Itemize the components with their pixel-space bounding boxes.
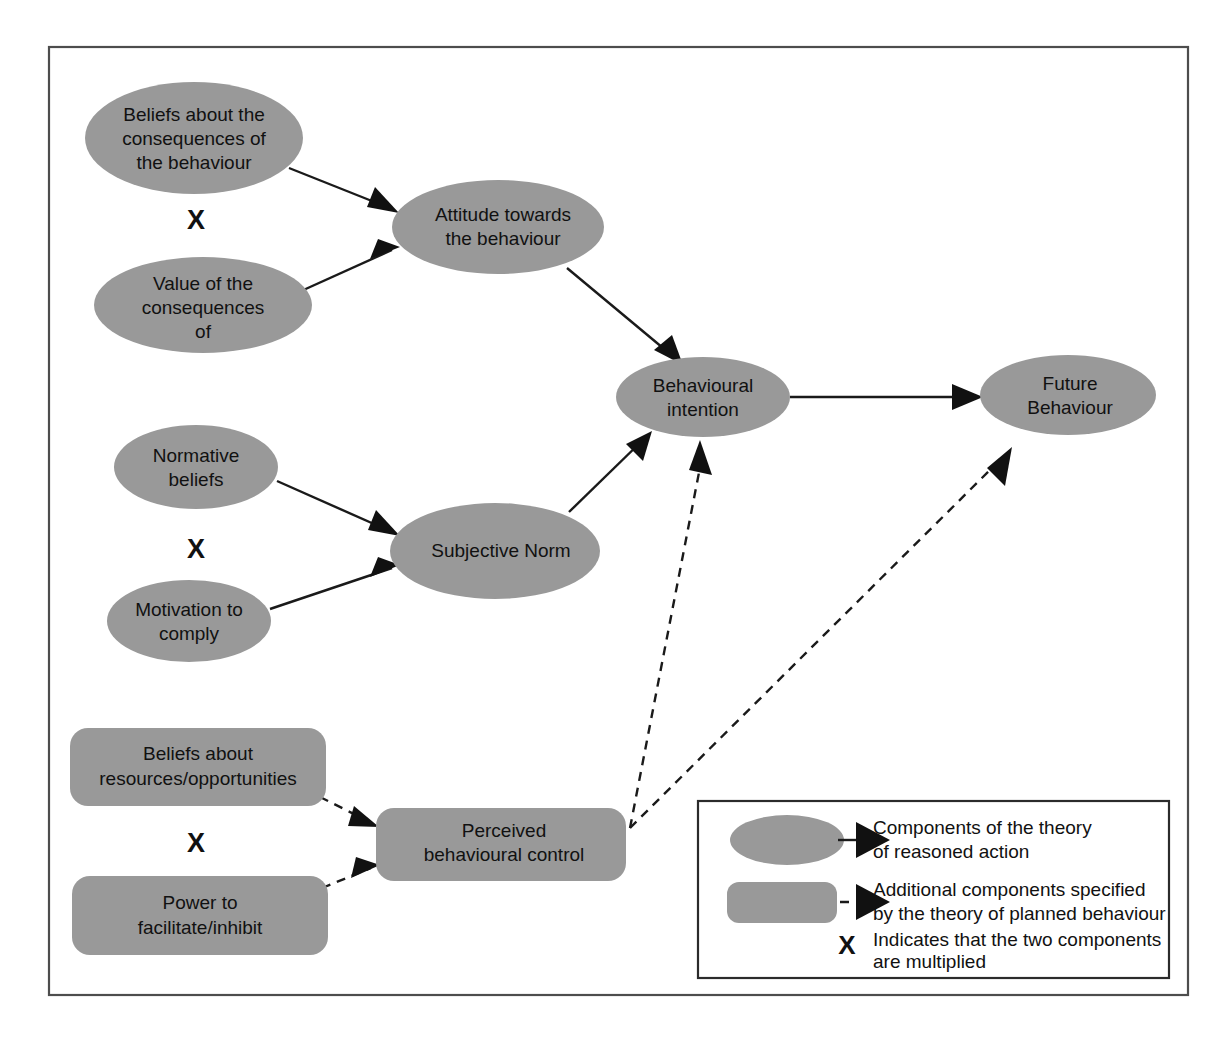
legend-label-line2: of reasoned action: [873, 841, 1029, 862]
node-label-line1: Value of the: [153, 273, 253, 294]
node-label-line2: consequences of: [122, 128, 266, 149]
node-motivation-to-comply[interactable]: Motivation to comply: [107, 580, 271, 662]
legend-label-line1: Additional components specified: [873, 879, 1146, 900]
legend-swatch-ellipse-icon: [730, 815, 844, 865]
legend-label-line2: by the theory of planned behaviour: [873, 903, 1166, 924]
node-power-to-facilitate[interactable]: Power to facilitate/inhibit: [72, 876, 328, 955]
node-label-line1: Perceived: [462, 820, 547, 841]
edge-behavioural-intention-to-future-behaviour: [790, 384, 983, 410]
node-label-line1: Motivation to: [135, 599, 243, 620]
node-label-line3: the behaviour: [136, 152, 252, 173]
node-label-line2: facilitate/inhibit: [138, 917, 263, 938]
node-normative-beliefs[interactable]: Normative beliefs: [114, 425, 278, 509]
legend-panel: Components of the theory of reasoned act…: [698, 801, 1169, 978]
node-beliefs-about-consequences[interactable]: Beliefs about the consequences of the be…: [85, 82, 303, 194]
arrow-head-icon: [952, 384, 983, 410]
arrow-head-icon: [367, 187, 399, 213]
node-label-line2: beliefs: [169, 469, 224, 490]
node-subjective-norm[interactable]: Subjective Norm: [390, 503, 600, 599]
edge-attitude-to-behavioural-intention: [567, 268, 683, 365]
arrow-head-icon: [351, 857, 380, 878]
node-label-line1: Beliefs about the: [123, 104, 265, 125]
node-label-line3: of: [195, 321, 212, 342]
node-label-line1: Future: [1043, 373, 1098, 394]
diagram-canvas: Beliefs about the consequences of the be…: [0, 0, 1227, 1043]
legend-label-line2: are multiplied: [873, 951, 986, 972]
edge-motivation-to-comply-to-subjective-norm: [270, 557, 400, 609]
edge-subjective-norm-to-behavioural-intention: [569, 431, 652, 512]
multiplier-symbol-norm: X: [187, 534, 205, 564]
node-label-line2: consequences: [142, 297, 265, 318]
arrow-head-icon: [689, 440, 712, 475]
arrow-head-icon: [370, 239, 400, 259]
ellipse-shape: [114, 425, 278, 509]
edge-beliefs-resources-to-perceived-control: [320, 797, 379, 827]
node-label-line1: Power to: [163, 892, 238, 913]
legend-label-line1: Components of the theory: [873, 817, 1092, 838]
node-beliefs-about-resources[interactable]: Beliefs about resources/opportunities: [70, 728, 326, 806]
node-value-of-consequences[interactable]: Value of the consequences of: [94, 257, 312, 353]
node-label-line2: resources/opportunities: [99, 768, 297, 789]
edge-beliefs-consequences-to-attitude: [289, 168, 399, 213]
rounded-rect-shape: [72, 876, 328, 955]
node-label-line1: Behavioural: [653, 375, 753, 396]
node-label-line2: Behaviour: [1027, 397, 1113, 418]
theory-of-planned-behaviour-diagram: Beliefs about the consequences of the be…: [0, 0, 1227, 1043]
ellipse-shape: [107, 580, 271, 662]
edge-normative-beliefs-to-subjective-norm: [277, 481, 400, 536]
node-label-line1: Normative: [153, 445, 240, 466]
multiplier-symbol-attitude: X: [187, 205, 205, 235]
node-perceived-behavioural-control[interactable]: Perceived behavioural control: [376, 808, 626, 881]
edge-perceived-control-to-future-behaviour: [630, 447, 1012, 828]
node-label-line2: behavioural control: [424, 844, 585, 865]
arrow-head-icon: [348, 806, 379, 827]
ellipse-shape: [616, 357, 790, 437]
legend-x-symbol-icon: X: [838, 930, 856, 960]
arrow-head-icon: [987, 447, 1012, 486]
arrow-head-icon: [626, 431, 652, 461]
node-label-line1: Subjective Norm: [431, 540, 570, 561]
legend-swatch-rounded-rect-icon: [727, 882, 837, 923]
ellipse-shape: [392, 180, 604, 274]
multiplier-symbol-control: X: [187, 828, 205, 858]
legend-label-line1: Indicates that the two components: [873, 929, 1161, 950]
node-attitude-towards-behaviour[interactable]: Attitude towards the behaviour: [392, 180, 604, 274]
node-future-behaviour[interactable]: Future Behaviour: [980, 355, 1156, 435]
node-label-line2: comply: [159, 623, 220, 644]
rounded-rect-shape: [70, 728, 326, 806]
ellipse-shape: [980, 355, 1156, 435]
arrow-head-icon: [368, 510, 400, 536]
node-behavioural-intention[interactable]: Behavioural intention: [616, 357, 790, 437]
edge-value-consequences-to-attitude: [299, 239, 400, 292]
node-label-line1: Beliefs about: [143, 743, 254, 764]
edge-perceived-control-to-behavioural-intention: [630, 440, 712, 828]
node-label-line2: intention: [667, 399, 739, 420]
edge-power-facilitate-to-perceived-control: [322, 857, 380, 888]
node-label-line1: Attitude towards: [435, 204, 571, 225]
node-label-line2: the behaviour: [445, 228, 561, 249]
